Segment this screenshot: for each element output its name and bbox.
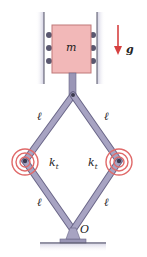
gravity-label: g	[126, 44, 134, 55]
spring-label-right: kt	[88, 157, 98, 171]
mass-label: m	[66, 42, 76, 53]
spring-label-left: kt	[49, 157, 59, 171]
mechanism-diagram	[0, 0, 147, 257]
link-label-upper-right: ℓ	[104, 111, 109, 122]
ground-support	[40, 228, 106, 252]
pivot-label: O	[80, 224, 89, 235]
gravity-arrow-icon	[114, 25, 122, 55]
link-label-lower-left: ℓ	[37, 197, 42, 208]
link-label-upper-left: ℓ	[37, 111, 42, 122]
link-label-lower-right: ℓ	[104, 197, 109, 208]
